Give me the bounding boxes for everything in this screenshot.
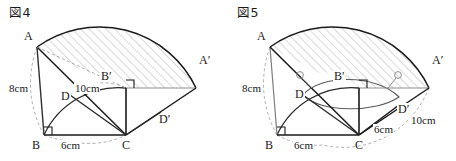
figure-5-caption: 図5	[237, 7, 259, 20]
vertex-label-C: C	[122, 139, 130, 151]
dimension-label-CA: 10cm	[74, 83, 100, 94]
figure-4-panel: 図4 A A′ B B′ C D D′ 8cm 6cm 10cm	[0, 0, 228, 161]
construction-arc-radius-CB	[44, 135, 126, 143]
hatched-sector-region	[37, 27, 196, 88]
segment-C-D	[303, 95, 359, 135]
vertex-label-B: B	[265, 139, 273, 151]
figure-board: 図4 A A′ B B′ C D D′ 8cm 6cm 10cm	[0, 0, 456, 161]
vertex-label-D-prime: D′	[159, 113, 170, 125]
figure-4-drawing	[0, 0, 228, 161]
figure-5-panel: 図5 A A′ B B′ C D D′ 8cm 6cm 6cm 10cm	[228, 0, 456, 161]
construction-arc-radius-CA	[31, 47, 44, 135]
segment-C-Dprime	[126, 112, 161, 135]
vertex-label-D: D	[60, 90, 71, 102]
vertex-label-C: C	[355, 139, 363, 151]
vertex-label-A-prime: A′	[432, 54, 443, 66]
dimension-label-BC: 6cm	[60, 140, 81, 151]
vertex-label-D-prime: D′	[397, 103, 410, 115]
vertex-label-D: D	[294, 88, 305, 100]
vertex-label-A: A	[24, 30, 33, 42]
hatched-sector-region	[270, 27, 429, 88]
dimension-label-AB: 8cm	[241, 83, 262, 94]
dimension-label-BC: 6cm	[293, 140, 314, 151]
vertex-label-B-prime: B′	[333, 70, 346, 82]
dimension-label-AB: 8cm	[8, 83, 29, 94]
vertex-label-A: A	[257, 30, 266, 42]
dimension-label-CAprime: 10cm	[410, 115, 436, 126]
construction-arc-radius-CA	[264, 47, 277, 135]
segment-A-B	[37, 47, 44, 135]
vertex-label-A-prime: A′	[199, 54, 210, 66]
figure-4-caption: 図4	[9, 7, 31, 20]
segment-C-D	[70, 95, 126, 135]
vertex-label-B-prime: B′	[100, 70, 113, 82]
segment-A-B	[270, 47, 277, 135]
vertex-label-B: B	[32, 139, 40, 151]
dimension-label-CDprime: 6cm	[373, 124, 394, 135]
